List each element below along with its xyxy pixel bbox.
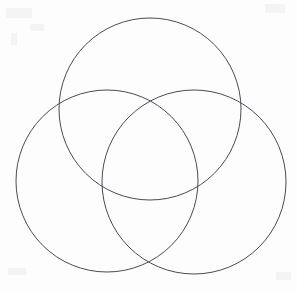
venn-diagram-canvas (0, 0, 297, 290)
venn-diagram-svg (0, 0, 297, 290)
diagram-background (0, 0, 297, 290)
